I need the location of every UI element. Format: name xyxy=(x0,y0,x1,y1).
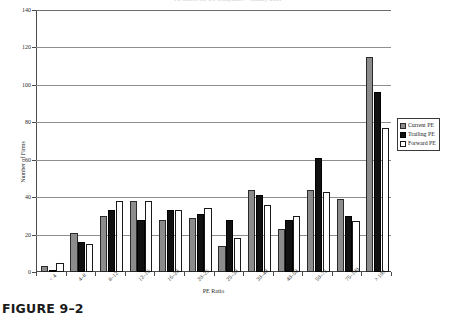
bar-forward-pe xyxy=(352,221,359,272)
x-tick xyxy=(125,272,126,276)
bar-current-pe xyxy=(70,233,77,272)
legend-swatch-forward-pe xyxy=(400,141,406,147)
legend-swatch-trailing-pe xyxy=(400,132,406,138)
bar-trailing-pe xyxy=(285,220,292,272)
bar-current-pe xyxy=(41,266,48,272)
bar-current-pe xyxy=(189,218,196,272)
y-tick-label-80: 80 xyxy=(25,119,31,125)
bar-forward-pe xyxy=(204,208,211,272)
cut-off-chart-title: PE Ratios for US Companies – January 200… xyxy=(0,0,456,7)
x-tick xyxy=(391,272,392,276)
bar-trailing-pe xyxy=(108,210,115,272)
bar-group xyxy=(214,10,244,272)
x-tick xyxy=(332,272,333,276)
x-tick xyxy=(243,272,244,276)
chart-title-text: PE Ratios for US Companies – January 200… xyxy=(0,0,456,2)
y-tick-label-100: 100 xyxy=(22,82,31,88)
bar-forward-pe xyxy=(382,128,389,272)
y-tick-label-60: 60 xyxy=(25,157,31,163)
x-category-label: 4–8 xyxy=(77,272,87,282)
x-tick xyxy=(184,272,185,276)
bar-trailing-pe xyxy=(137,220,144,272)
bar-trailing-pe xyxy=(49,270,56,272)
y-tick-label-140: 140 xyxy=(22,7,31,13)
bar-trailing-pe xyxy=(374,92,381,272)
bar-forward-pe xyxy=(234,238,241,272)
bar-forward-pe xyxy=(116,201,123,272)
plot-area: 020406080100120140 < 44–88–1212–1616–202… xyxy=(36,10,391,272)
x-category-label: < 4 xyxy=(48,273,57,282)
bar-current-pe xyxy=(307,190,314,272)
bar-current-pe xyxy=(248,190,255,272)
bar-trailing-pe xyxy=(315,158,322,272)
legend-label-forward-pe: Forward PE xyxy=(408,141,436,147)
bar-trailing-pe xyxy=(345,216,352,272)
y-tick-label-20: 20 xyxy=(25,232,31,238)
bar-forward-pe xyxy=(145,201,152,272)
x-tick xyxy=(214,272,215,276)
bar-forward-pe xyxy=(175,210,182,272)
x-tick xyxy=(95,272,96,276)
bar-series-layer xyxy=(36,10,391,272)
legend-label-trailing-pe: Trailing PE xyxy=(408,132,435,138)
bar-trailing-pe xyxy=(78,242,85,272)
x-tick xyxy=(66,272,67,276)
y-tick-label-120: 120 xyxy=(22,44,31,50)
bar-group xyxy=(125,10,155,272)
bar-current-pe xyxy=(130,201,137,272)
bar-trailing-pe xyxy=(256,195,263,272)
legend-item-current-pe: Current PE xyxy=(400,121,436,130)
bar-group xyxy=(36,10,66,272)
bar-group xyxy=(332,10,362,272)
bar-group xyxy=(66,10,96,272)
legend-swatch-current-pe xyxy=(400,123,406,129)
x-axis-title: PE Ratio xyxy=(36,288,391,294)
bar-current-pe xyxy=(278,229,285,272)
y-tick-label-0: 0 xyxy=(28,269,31,275)
bar-group xyxy=(154,10,184,272)
bar-group xyxy=(361,10,391,272)
bar-current-pe xyxy=(366,57,373,272)
y-tick-label-40: 40 xyxy=(25,194,31,200)
figure-container: PE Ratios for US Companies – January 200… xyxy=(0,0,456,323)
legend-item-forward-pe: Forward PE xyxy=(400,139,436,148)
legend-label-current-pe: Current PE xyxy=(408,123,434,129)
x-tick xyxy=(154,272,155,276)
figure-caption: FIGURE 9–2 xyxy=(2,301,84,316)
bar-current-pe xyxy=(218,246,225,272)
bar-trailing-pe xyxy=(226,220,233,272)
bar-forward-pe xyxy=(293,216,300,272)
bar-forward-pe xyxy=(264,205,271,272)
bar-current-pe xyxy=(337,199,344,272)
x-tick xyxy=(302,272,303,276)
x-tick xyxy=(273,272,274,276)
legend-item-trailing-pe: Trailing PE xyxy=(400,130,436,139)
x-tick xyxy=(361,272,362,276)
bar-forward-pe xyxy=(323,192,330,272)
bar-trailing-pe xyxy=(167,210,174,272)
bar-forward-pe xyxy=(56,263,63,272)
bar-group xyxy=(184,10,214,272)
x-tick xyxy=(36,272,37,276)
bar-group xyxy=(273,10,303,272)
bar-forward-pe xyxy=(86,244,93,272)
bar-current-pe xyxy=(159,220,166,272)
chart-legend: Current PE Trailing PE Forward PE xyxy=(397,118,440,151)
bar-group xyxy=(95,10,125,272)
bar-current-pe xyxy=(100,216,107,272)
bar-group xyxy=(302,10,332,272)
bar-trailing-pe xyxy=(197,214,204,272)
bar-group xyxy=(243,10,273,272)
